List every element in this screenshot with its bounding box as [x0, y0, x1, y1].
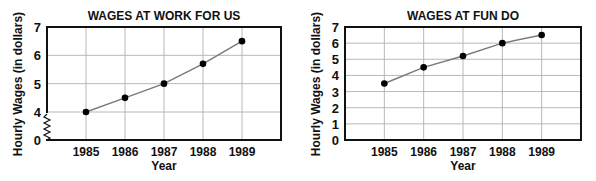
y-tick-label: 5: [34, 77, 41, 92]
x-tick-label: 1987: [450, 145, 477, 159]
x-tick-label: 1987: [151, 145, 178, 159]
y-tick-label: 6: [34, 48, 41, 63]
x-tick-label: 1989: [229, 145, 256, 159]
y-tick-label: 2: [332, 101, 339, 116]
plot-area: 0456719851986198719881989: [34, 20, 281, 159]
chart-work-for-us: WAGES AT WORK FOR US Hourly Wages (in do…: [0, 0, 300, 181]
plot-area: 0123456719851986198719881989: [332, 20, 581, 159]
x-tick-label: 1985: [73, 145, 100, 159]
x-tick-label: 1989: [528, 145, 555, 159]
chart-title: WAGES AT WORK FOR US: [88, 9, 241, 23]
axis-break-icon: [44, 114, 50, 140]
x-tick-label: 1988: [190, 145, 217, 159]
data-point: [83, 109, 90, 116]
data-point: [122, 95, 129, 102]
x-axis-label: Year: [151, 159, 177, 173]
y-tick-label: 0: [332, 133, 339, 148]
y-tick-label: 1: [332, 117, 339, 132]
chart-fun-do-svg: WAGES AT FUN DO Hourly Wages (in dollars…: [300, 0, 596, 181]
chart-title: WAGES AT FUN DO: [407, 9, 519, 23]
data-point: [161, 80, 168, 87]
x-tick-label: 1986: [112, 145, 139, 159]
data-point: [200, 61, 207, 68]
x-tick-label: 1985: [371, 145, 398, 159]
data-point: [420, 64, 427, 71]
data-point: [381, 80, 388, 87]
chart-work-for-us-svg: WAGES AT WORK FOR US Hourly Wages (in do…: [0, 0, 300, 181]
y-axis-label: Hourly Wages (in dollars): [309, 12, 323, 156]
data-point: [538, 32, 545, 39]
y-tick-label: 4: [34, 105, 42, 120]
data-point: [239, 38, 246, 45]
x-tick-label: 1986: [410, 145, 437, 159]
y-tick-label: 6: [332, 36, 339, 51]
data-point: [460, 53, 467, 60]
chart-fun-do: WAGES AT FUN DO Hourly Wages (in dollars…: [300, 0, 596, 181]
x-axis-label: Year: [450, 159, 476, 173]
y-tick-label: 7: [332, 20, 339, 35]
y-tick-label: 4: [332, 68, 340, 83]
y-tick-label: 0: [34, 133, 41, 148]
y-tick-label: 7: [34, 20, 41, 35]
y-tick-label: 3: [332, 85, 339, 100]
data-point: [499, 40, 506, 47]
y-tick-label: 5: [332, 52, 339, 67]
x-tick-label: 1988: [489, 145, 516, 159]
y-axis-label: Hourly Wages (in dollars): [11, 12, 25, 156]
